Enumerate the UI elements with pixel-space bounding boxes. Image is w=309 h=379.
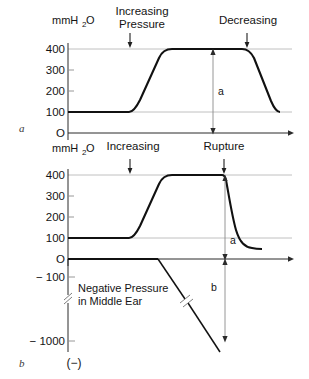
ytick-label-300-a: 300	[46, 64, 65, 76]
line-break-slash-1	[180, 295, 190, 303]
unit-label-a: mmH 2 O	[52, 14, 95, 29]
annotation-rupture-b: Rupture	[204, 140, 245, 152]
unit-label-tail-a: O	[86, 14, 95, 26]
panel-label-b: b	[19, 357, 25, 369]
x-axis-arrowhead-a	[288, 130, 294, 136]
panel-label-a: a	[19, 122, 25, 134]
unit-label-tail-b: O	[86, 142, 95, 154]
pressure-rupture-figure: 400 300 200 100 O mmH 2 O Increasing Pre…	[0, 0, 309, 379]
ytick-label-300-b: 300	[46, 190, 65, 202]
pointer-head-increasing-b	[128, 168, 133, 174]
curve-ear-canal-pressure-a	[68, 49, 280, 112]
pointer-head-increasing-pressure-a	[128, 42, 133, 48]
measure-arrow-a-head-bottom	[210, 128, 215, 135]
ytick-label-origin-b: O	[56, 253, 65, 265]
caption-negative-pressure-line1: Negative Pressure	[78, 282, 169, 294]
pointer-head-decreasing-a	[245, 42, 250, 48]
annotation-increasing-b: Increasing	[106, 140, 159, 152]
annotation-increasing-pressure-line1: Increasing	[115, 5, 168, 17]
measure-label-b-a: a	[230, 234, 236, 246]
unit-label-main-b: mmH	[52, 142, 78, 154]
ytick-label-100-a: 100	[46, 106, 65, 118]
panel-b-upper: 400 300 200 100 O mmH 2 O Increasing Rup…	[46, 140, 294, 266]
annotation-decreasing: Decreasing	[219, 14, 277, 26]
ytick-label-400-b: 400	[46, 169, 65, 181]
negative-sign-label: (−)	[67, 356, 82, 370]
panel-a: 400 300 200 100 O mmH 2 O Increasing Pre…	[19, 5, 294, 140]
ytick-label-200-a: 200	[46, 85, 65, 97]
panel-b-lower: − 100 − 1000 Negative Pressure in Middle…	[19, 259, 228, 371]
unit-label-main-a: mmH	[52, 14, 78, 26]
axis-break-slash-2	[64, 297, 72, 304]
measure-label-b: b	[211, 281, 217, 293]
ytick-label-200-b: 200	[46, 211, 65, 223]
caption-negative-pressure-line2: in Middle Ear	[78, 295, 143, 307]
ytick-label-neg100-b: − 100	[36, 271, 65, 283]
x-axis-arrowhead-b	[288, 256, 294, 262]
figure-container: 400 300 200 100 O mmH 2 O Increasing Pre…	[0, 0, 309, 379]
curve-middle-ear-descent-seg2	[188, 303, 220, 352]
ytick-label-400-a: 400	[46, 43, 65, 55]
ytick-label-neg1000-b: − 1000	[30, 335, 66, 347]
measure-label-a: a	[218, 85, 224, 97]
ytick-label-origin-a: O	[56, 127, 65, 139]
measure-arrow-b-head-bottom	[222, 336, 227, 343]
line-break-slash-2	[183, 299, 193, 307]
ytick-label-100-b: 100	[46, 232, 65, 244]
annotation-increasing-pressure-line2: Pressure	[119, 18, 165, 30]
unit-label-b: mmH 2 O	[52, 142, 95, 157]
pointer-head-rupture-b	[222, 168, 227, 174]
